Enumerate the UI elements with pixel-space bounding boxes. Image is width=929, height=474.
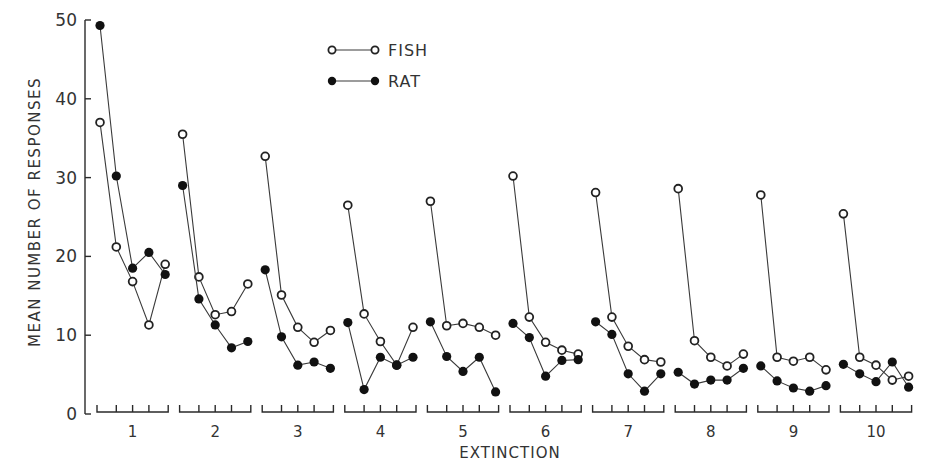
data-point xyxy=(278,291,286,299)
data-point xyxy=(839,360,848,369)
data-point xyxy=(211,311,219,319)
x-group-label: 1 xyxy=(128,423,138,441)
x-group-label: 5 xyxy=(458,423,468,441)
data-point xyxy=(592,189,600,197)
data-point xyxy=(607,330,616,339)
data-point xyxy=(509,172,517,180)
data-point xyxy=(128,264,137,273)
data-point xyxy=(723,362,731,370)
data-point xyxy=(96,119,104,127)
data-point xyxy=(95,21,104,30)
data-point xyxy=(408,353,417,362)
data-point xyxy=(492,331,500,339)
data-point xyxy=(591,317,600,326)
series-line xyxy=(430,201,495,335)
data-point xyxy=(871,377,880,386)
data-point xyxy=(739,364,748,373)
data-point xyxy=(112,171,121,180)
data-point xyxy=(293,361,302,370)
series-line xyxy=(183,134,248,314)
x-group-label: 8 xyxy=(706,423,716,441)
data-point xyxy=(310,338,318,346)
data-point xyxy=(409,323,417,331)
y-tick-label: 0 xyxy=(66,404,77,424)
data-point xyxy=(392,361,401,370)
data-point xyxy=(261,152,269,160)
series-line xyxy=(513,323,578,376)
data-point xyxy=(360,385,369,394)
data-point xyxy=(789,383,798,392)
data-point xyxy=(491,387,500,396)
data-point xyxy=(228,308,236,316)
data-point xyxy=(624,369,633,378)
data-point xyxy=(706,376,715,385)
data-point xyxy=(360,310,368,318)
series-fish xyxy=(96,119,912,384)
y-tick-label: 40 xyxy=(55,89,77,109)
data-point xyxy=(756,361,765,370)
data-point xyxy=(178,181,187,190)
data-point xyxy=(161,260,169,268)
data-point xyxy=(294,323,302,331)
data-point xyxy=(790,357,798,365)
data-point xyxy=(657,358,665,366)
y-tick-label: 30 xyxy=(55,168,77,188)
x-group-label: 4 xyxy=(376,423,386,441)
series-line xyxy=(430,322,495,392)
data-point xyxy=(856,353,864,361)
x-group-label: 6 xyxy=(541,423,551,441)
data-point xyxy=(277,332,286,341)
data-point xyxy=(426,317,435,326)
series-line xyxy=(265,270,330,369)
x-group-label: 2 xyxy=(210,423,220,441)
data-point xyxy=(376,353,385,362)
data-point xyxy=(459,319,467,327)
data-point xyxy=(194,294,203,303)
data-point xyxy=(888,376,896,384)
data-point xyxy=(443,322,451,330)
data-point xyxy=(145,321,153,329)
data-point xyxy=(821,381,830,390)
data-point xyxy=(641,356,649,364)
data-point xyxy=(310,357,319,366)
data-point xyxy=(608,313,616,321)
series-line xyxy=(761,195,826,370)
y-tick-label: 10 xyxy=(55,325,77,345)
x-group-label: 3 xyxy=(293,423,303,441)
data-point xyxy=(888,357,897,366)
data-point xyxy=(343,318,352,327)
series-rat xyxy=(95,21,913,397)
data-point xyxy=(557,356,566,365)
y-axis-label: MEAN NUMBER OF RESPONSES xyxy=(26,77,44,347)
data-point xyxy=(427,197,435,205)
data-point xyxy=(723,376,732,385)
x-group-label: 7 xyxy=(623,423,633,441)
series-line xyxy=(678,189,743,366)
data-point xyxy=(377,338,385,346)
data-point xyxy=(822,366,830,374)
data-point xyxy=(227,343,236,352)
y-tick-label: 50 xyxy=(55,10,77,30)
line-chart: 0102030405012345678910 FISH RAT MEAN NUM… xyxy=(0,0,929,474)
series-line xyxy=(513,176,578,354)
data-point xyxy=(558,346,566,354)
legend: FISH RAT xyxy=(328,41,428,91)
data-point xyxy=(243,337,252,346)
data-point xyxy=(805,387,814,396)
legend-fish-label: FISH xyxy=(388,41,428,60)
series-line xyxy=(596,322,661,391)
data-point xyxy=(773,376,782,385)
data-point xyxy=(740,350,748,358)
data-point xyxy=(757,191,765,199)
series-line xyxy=(100,122,165,325)
data-point xyxy=(904,383,913,392)
data-point xyxy=(475,353,484,362)
data-point xyxy=(326,364,335,373)
legend-rat-marker-icon xyxy=(371,77,379,85)
data-point xyxy=(261,265,270,274)
data-point xyxy=(344,201,352,209)
data-point xyxy=(541,372,550,381)
data-point xyxy=(656,369,665,378)
series-line xyxy=(265,156,330,342)
data-point xyxy=(855,369,864,378)
